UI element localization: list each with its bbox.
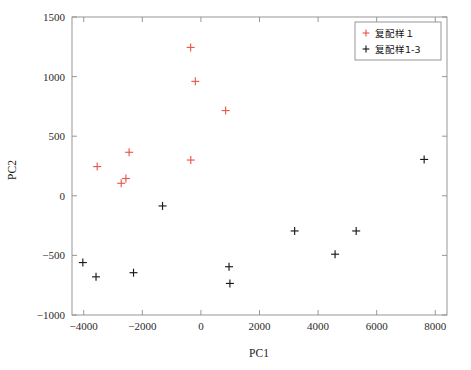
legend-label-1: 复配样1-3 — [375, 44, 421, 55]
x-axis-title: PC1 — [249, 347, 269, 359]
data-point-marker — [159, 202, 167, 210]
y-tick-label: 1000 — [43, 71, 66, 83]
data-point-marker — [117, 179, 125, 187]
y-tick-label: 0 — [60, 190, 66, 202]
series-fupeiyang1-3-points — [79, 155, 428, 287]
legend[interactable]: 复配样１复配样1-3 — [355, 22, 441, 60]
y-axis-ticks — [72, 17, 447, 315]
axes-frame — [72, 17, 447, 315]
data-point-marker — [291, 227, 299, 235]
data-point-marker — [420, 155, 428, 163]
plot-canvas: −4000−200002000400060008000 −1000−500050… — [0, 0, 471, 370]
scatter-plot-figure: −4000−200002000400060008000 −1000−500050… — [0, 0, 471, 370]
data-point-marker — [191, 77, 199, 85]
data-point-marker — [122, 175, 130, 183]
data-point-marker — [79, 259, 87, 267]
data-point-marker — [331, 250, 339, 258]
series-fupeiyang1-points — [93, 43, 229, 187]
y-tick-label: 1500 — [43, 11, 66, 23]
x-tick-label: −2000 — [128, 320, 157, 332]
data-point-marker — [225, 263, 233, 271]
data-point-marker — [226, 279, 234, 287]
x-tick-label: −4000 — [70, 320, 99, 332]
data-point-marker — [125, 148, 133, 156]
y-tick-label: −500 — [42, 249, 65, 261]
x-tick-label: 8000 — [424, 320, 447, 332]
y-axis-tick-labels: −1000−500050010001500 — [37, 11, 66, 321]
data-point-marker — [187, 43, 195, 51]
y-tick-label: 500 — [49, 130, 66, 142]
data-point-marker — [352, 227, 360, 235]
data-point-marker — [92, 273, 100, 281]
x-tick-label: 6000 — [366, 320, 389, 332]
x-axis-tick-labels: −4000−200002000400060008000 — [70, 320, 447, 332]
x-tick-label: 0 — [198, 320, 204, 332]
x-axis-ticks — [84, 17, 436, 315]
legend-label-0: 复配样１ — [375, 28, 415, 39]
data-point-marker — [222, 107, 230, 115]
x-tick-label: 4000 — [307, 320, 330, 332]
data-point-marker — [187, 156, 195, 164]
x-tick-label: 2000 — [249, 320, 272, 332]
data-point-marker — [93, 163, 101, 171]
data-point-marker — [130, 269, 138, 277]
y-axis-title: PC2 — [6, 160, 18, 180]
y-tick-label: −1000 — [37, 309, 66, 321]
